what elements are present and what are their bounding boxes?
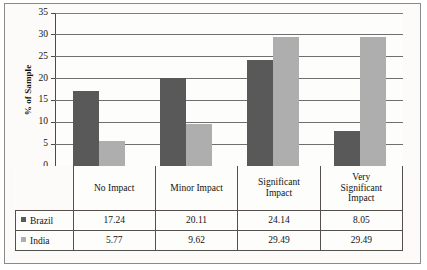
bar-brazil: [160, 78, 186, 166]
data-cell-india-2: 9.62: [155, 231, 237, 251]
bar-brazil: [247, 60, 273, 166]
bar-brazil: [334, 131, 360, 166]
y-axis-tick-label: 15: [39, 96, 49, 106]
bar-brazil: [73, 91, 99, 166]
bar-india: [273, 37, 299, 166]
y-axis-tick-label: 10: [39, 118, 49, 128]
data-cell-india-4: 29.49: [320, 231, 402, 251]
data-cell-india-1: 5.77: [73, 231, 155, 251]
bar-india: [186, 124, 212, 166]
y-axis-tick-label: 35: [39, 8, 49, 18]
data-table: No ImpactMinor ImpactSignificantImpactVe…: [15, 166, 403, 251]
category-header-3: SignificantImpact: [238, 166, 320, 211]
legend-swatch-icon: [21, 217, 26, 222]
legend-item-brazil: Brazil: [16, 211, 74, 231]
legend-item-india: India: [16, 231, 74, 251]
category-header-4: VerySignificantImpact: [320, 166, 402, 211]
category-label-line: Significant: [321, 183, 402, 194]
y-axis-tick-label: 20: [39, 74, 49, 84]
bars-layer: [55, 13, 403, 166]
data-cell-india-3: 29.49: [238, 231, 320, 251]
category-header-2: Minor Impact: [155, 166, 237, 211]
bar-group: [316, 13, 403, 166]
legend-series-label: India: [30, 235, 50, 245]
bar-group: [142, 13, 229, 166]
category-label-line: Very: [321, 172, 402, 183]
category-label-line: Minor Impact: [156, 183, 237, 194]
y-axis-tick-label: 5: [43, 139, 48, 149]
y-axis-tick-label: 25: [39, 52, 49, 62]
category-header-1: No Impact: [73, 166, 155, 211]
y-axis-title: % of Sample: [21, 13, 35, 166]
chart-figure: % of Sample 05101520253035 No ImpactMino…: [4, 3, 421, 264]
table-header-row: No ImpactMinor ImpactSignificantImpactVe…: [16, 166, 403, 211]
table-corner-cell: [16, 166, 74, 211]
legend-series-label: Brazil: [30, 215, 53, 225]
legend-swatch-icon: [21, 237, 26, 242]
bar-group: [55, 13, 142, 166]
category-label-line: Impact: [321, 193, 402, 204]
y-axis-title-label: % of Sample: [23, 64, 33, 115]
data-cell-brazil-2: 20.11: [155, 211, 237, 231]
data-cell-brazil-4: 8.05: [320, 211, 402, 231]
table-row: India5.779.6229.4929.49: [16, 231, 403, 251]
category-label-line: No Impact: [74, 183, 155, 194]
y-axis-tick-label: 30: [39, 30, 49, 40]
category-label-line: Impact: [238, 188, 319, 199]
table-row: Brazil17.2420.1124.148.05: [16, 211, 403, 231]
data-cell-brazil-1: 17.24: [73, 211, 155, 231]
category-label-line: Significant: [238, 177, 319, 188]
bar-group: [229, 13, 316, 166]
data-table-body: No ImpactMinor ImpactSignificantImpactVe…: [16, 166, 403, 251]
plot-area: 05101520253035: [55, 13, 403, 166]
chart-canvas: % of Sample 05101520253035 No ImpactMino…: [5, 4, 420, 263]
data-cell-brazil-3: 24.14: [238, 211, 320, 231]
bar-india: [360, 37, 386, 166]
bar-india: [99, 141, 125, 166]
